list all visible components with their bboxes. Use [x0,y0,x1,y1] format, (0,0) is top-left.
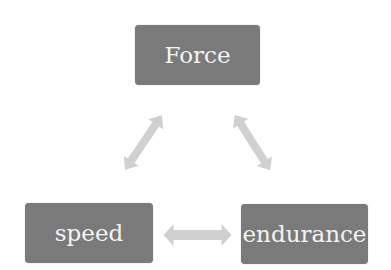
node-force-label: Force [164,42,230,68]
node-speed: speed [25,203,153,263]
double-arrow-speed-endurance [164,224,232,246]
double-arrow-force-endurance [227,110,278,175]
node-endurance-label: endurance [243,221,367,247]
double-arrow-force-speed [118,110,170,175]
node-endurance: endurance [241,204,368,264]
node-force: Force [135,25,260,85]
node-speed-label: speed [55,220,123,246]
